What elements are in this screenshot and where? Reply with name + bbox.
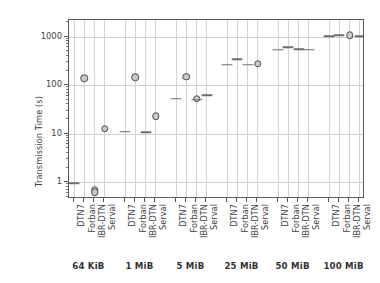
x-tick-mark <box>205 198 206 202</box>
y-tick-label: 100 <box>46 79 62 89</box>
x-tick-mark <box>134 198 135 202</box>
vertical-gridline <box>349 20 350 197</box>
x-tick-mark <box>83 198 84 202</box>
data-point-outlier <box>81 74 89 82</box>
y-tick-label: 1 <box>57 176 62 186</box>
x-tick-mark <box>93 198 94 202</box>
group-label: 25 MiB <box>224 261 258 271</box>
y-tick-label: 1000 <box>41 31 62 41</box>
group-label: 50 MiB <box>275 261 309 271</box>
x-tick-label: Serval <box>158 204 168 230</box>
group-label: 64 KiB <box>72 261 104 271</box>
vertical-gridline <box>257 20 258 197</box>
x-tick-label: DTN7 <box>178 204 188 227</box>
group-label: 5 MiB <box>176 261 204 271</box>
x-tick-label: Forban <box>291 204 301 232</box>
group-label: 100 MiB <box>323 261 363 271</box>
data-point-median <box>171 98 182 100</box>
vertical-gridline <box>176 20 177 197</box>
x-tick-mark <box>226 198 227 202</box>
data-point-median <box>120 131 131 133</box>
horizontal-gridline <box>69 85 363 86</box>
data-point-outlier <box>132 74 140 82</box>
horizontal-gridline <box>69 182 363 183</box>
x-tick-mark <box>358 198 359 202</box>
data-point-median <box>273 49 284 51</box>
x-tick-label: Forban <box>240 204 250 232</box>
x-tick-mark <box>154 198 155 202</box>
vertical-gridline <box>247 20 248 197</box>
x-tick-mark <box>246 198 247 202</box>
y-axis-title: Transmission Time (s) <box>26 0 52 283</box>
vertical-gridline <box>84 20 85 197</box>
x-tick-label: Serval <box>362 204 372 230</box>
vertical-gridline <box>359 20 360 197</box>
data-point-outlier <box>183 73 191 81</box>
x-tick-mark <box>328 198 329 202</box>
vertical-gridline <box>104 20 105 197</box>
data-point-median <box>191 99 202 101</box>
x-tick-label: DTN7 <box>76 204 86 227</box>
x-tick-mark <box>185 198 186 202</box>
x-tick-mark <box>103 198 104 202</box>
x-tick-label: DTN7 <box>127 204 137 227</box>
vertical-gridline <box>196 20 197 197</box>
x-tick-mark <box>297 198 298 202</box>
data-point-outlier <box>254 60 262 68</box>
data-point-median <box>232 59 243 61</box>
vertical-gridline <box>227 20 228 197</box>
x-tick-mark <box>144 198 145 202</box>
vertical-gridline <box>237 20 238 197</box>
data-point-median <box>334 34 345 36</box>
data-point-median <box>354 35 364 37</box>
x-tick-mark <box>256 198 257 202</box>
x-tick-label: IBR-DTN <box>250 204 260 238</box>
x-tick-mark <box>348 198 349 202</box>
x-tick-label: IBR-DTN <box>352 204 362 238</box>
x-tick-label: DTN7 <box>331 204 341 227</box>
vertical-gridline <box>186 20 187 197</box>
x-tick-mark <box>338 198 339 202</box>
data-point-median <box>69 182 80 184</box>
plot-area <box>68 19 364 198</box>
x-tick-mark <box>175 198 176 202</box>
vertical-gridline <box>298 20 299 197</box>
horizontal-gridline <box>69 37 363 38</box>
x-tick-label: Serval <box>209 204 219 230</box>
x-tick-label: IBR-DTN <box>148 204 158 238</box>
data-point-outlier <box>346 32 354 40</box>
data-point-median <box>283 47 294 49</box>
vertical-gridline <box>125 20 126 197</box>
vertical-gridline <box>206 20 207 197</box>
x-tick-label: DTN7 <box>229 204 239 227</box>
x-tick-label: IBR-DTN <box>199 204 209 238</box>
x-tick-label: IBR-DTN <box>97 204 107 238</box>
vertical-gridline <box>155 20 156 197</box>
x-tick-label: IBR-DTN <box>301 204 311 238</box>
data-point-median <box>303 49 314 51</box>
data-point-median <box>242 64 253 66</box>
x-tick-mark <box>277 198 278 202</box>
horizontal-gridline <box>69 134 363 135</box>
data-point-outlier <box>152 112 160 120</box>
data-point-outlier <box>91 188 99 196</box>
x-tick-label: Forban <box>189 204 199 232</box>
data-point-outlier <box>101 125 109 133</box>
vertical-gridline <box>339 20 340 197</box>
data-point-median <box>140 131 151 133</box>
y-tick-label: 10 <box>51 128 62 138</box>
x-tick-mark <box>307 198 308 202</box>
vertical-gridline <box>329 20 330 197</box>
x-tick-mark <box>124 198 125 202</box>
x-tick-mark <box>287 198 288 202</box>
x-tick-label: Forban <box>87 204 97 232</box>
group-label: 1 MiB <box>125 261 153 271</box>
data-point-median <box>201 94 212 96</box>
x-tick-label: Forban <box>342 204 352 232</box>
x-tick-label: Serval <box>311 204 321 230</box>
vertical-gridline <box>94 20 95 197</box>
vertical-gridline <box>308 20 309 197</box>
x-tick-mark <box>73 198 74 202</box>
vertical-gridline <box>278 20 279 197</box>
x-tick-mark <box>236 198 237 202</box>
